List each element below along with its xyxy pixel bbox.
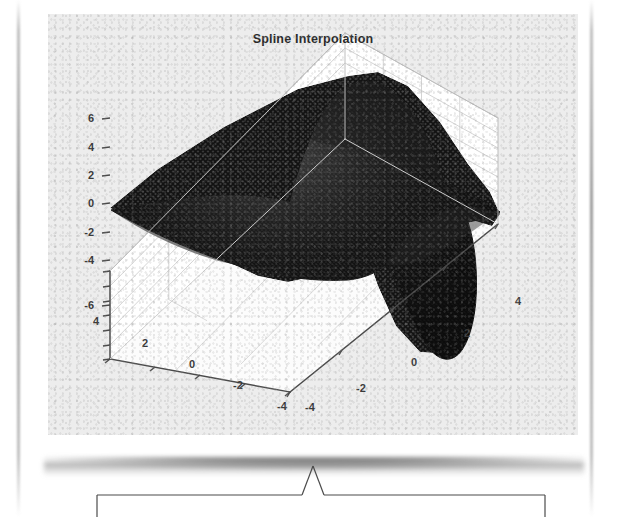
chart-title: Spline Interpolation xyxy=(48,32,578,46)
z-axis-upper-ticks xyxy=(102,118,110,306)
z-tick-label-2: 2 xyxy=(88,169,94,181)
z-tick-label-neg6: -6 xyxy=(84,299,94,311)
x-tick-label-neg2: -2 xyxy=(356,382,366,394)
y-tick-label-neg4: -4 xyxy=(277,400,288,412)
z-tick-label-neg2: -2 xyxy=(84,226,94,238)
x-tick-label-0: 0 xyxy=(411,356,417,368)
z-tick-label-neg4: -4 xyxy=(84,254,95,266)
x-tick-label-4: 4 xyxy=(515,295,522,307)
bracket-apex-right-arm xyxy=(313,466,324,495)
y-tick-label-4: 4 xyxy=(93,315,100,327)
page-edge-right xyxy=(590,0,593,517)
scanned-page: 6 4 2 0 -2 -4 -6 4 2 0 -2 -4 -4 -2 0 2 4… xyxy=(0,0,623,517)
z-tick-label-0: 0 xyxy=(88,197,94,209)
y-tick-label-0: 0 xyxy=(189,358,195,370)
surface-plot-axes: 6 4 2 0 -2 -4 -6 4 2 0 -2 -4 -4 -2 0 2 4 xyxy=(48,14,578,435)
page-edge-left xyxy=(17,0,20,517)
matlab-figure: 6 4 2 0 -2 -4 -6 4 2 0 -2 -4 -4 -2 0 2 4… xyxy=(48,14,578,435)
z-tick-label-6: 6 xyxy=(88,112,94,124)
z-tick-label-4: 4 xyxy=(88,141,95,153)
z-axis-ticks xyxy=(103,271,110,360)
x-tick-label-neg4: -4 xyxy=(305,401,316,413)
x-tick-label-2: 2 xyxy=(464,327,470,339)
y-tick-label-neg2: -2 xyxy=(233,379,243,391)
figure-callout-bracket xyxy=(0,455,623,517)
y-tick-label-2: 2 xyxy=(142,337,148,349)
bracket-apex-left-arm xyxy=(302,466,313,495)
